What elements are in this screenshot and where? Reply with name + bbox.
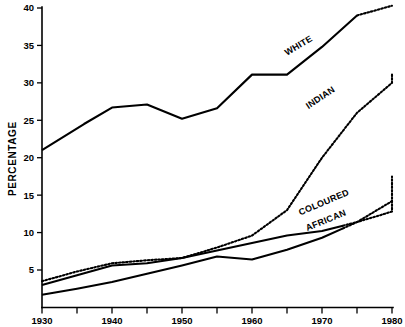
x-tick-label-1970: 1970 <box>311 315 332 326</box>
y-tick-label-40: 40 <box>23 2 34 13</box>
series-projection-african <box>343 199 392 228</box>
x-tick-label-1950: 1950 <box>171 315 192 326</box>
y-tick-label-5: 5 <box>29 264 35 275</box>
y-tick-label-35: 35 <box>23 40 34 51</box>
chart-canvas: 510152025303540 193019401950196019701980… <box>0 0 405 327</box>
x-tick-label-1940: 1940 <box>101 315 122 326</box>
data-series-group <box>42 6 392 295</box>
y-axis: 510152025303540 <box>23 2 42 307</box>
x-tick-label-1930: 1930 <box>31 315 52 326</box>
y-tick-label-25: 25 <box>23 115 34 126</box>
x-axis: 193019401950196019701980 <box>31 307 402 326</box>
x-tick-label-1960: 1960 <box>241 315 262 326</box>
y-axis-title: PERCENTAGE <box>7 121 18 196</box>
series-label-white: WHITE <box>283 33 314 57</box>
y-tick-label-group: 510152025303540 <box>23 2 34 275</box>
series-line-coloured <box>42 226 343 285</box>
y-tick-label-15: 15 <box>23 190 34 201</box>
series-line-african <box>42 228 343 294</box>
x-tick-label-group: 193019401950196019701980 <box>31 315 402 326</box>
x-tick-group <box>42 307 392 313</box>
y-tick-label-30: 30 <box>23 77 34 88</box>
line-chart: 510152025303540 193019401950196019701980… <box>0 0 405 327</box>
series-projection-white <box>357 6 392 16</box>
y-tick-label-10: 10 <box>23 227 34 238</box>
y-tick-label-20: 20 <box>23 152 34 163</box>
series-label-indian: INDIAN <box>304 84 337 111</box>
x-tick-label-1980: 1980 <box>381 315 402 326</box>
